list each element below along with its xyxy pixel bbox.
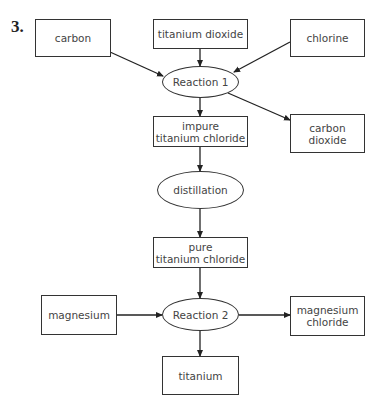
- node-label: titanium: [178, 370, 222, 382]
- node-label: Reaction 2: [173, 309, 229, 321]
- node-carbon-dioxide: carbon dioxide: [290, 114, 365, 153]
- node-label: Reaction 1: [173, 76, 229, 88]
- node-label: titanium dioxide: [158, 28, 243, 40]
- node-label: magnesium: [48, 309, 110, 321]
- node-magnesium-chloride: magnesium chloride: [290, 296, 365, 336]
- node-label: magnesium chloride: [297, 304, 359, 328]
- node-label: pure titanium chloride: [156, 241, 246, 265]
- node-label: chlorine: [306, 32, 348, 44]
- node-chlorine: chlorine: [290, 19, 365, 57]
- node-titanium: titanium: [162, 356, 239, 395]
- question-number: 3.: [11, 17, 24, 37]
- arrow-carbon-to-reaction1: [110, 52, 163, 76]
- node-reaction-1: Reaction 1: [162, 66, 239, 98]
- node-distillation: distillation: [157, 171, 244, 209]
- node-label: distillation: [173, 184, 227, 196]
- node-magnesium: magnesium: [41, 295, 117, 335]
- node-label: impure titanium chloride: [156, 120, 246, 144]
- node-label: carbon dioxide: [309, 122, 347, 146]
- node-titanium-dioxide: titanium dioxide: [153, 19, 248, 49]
- node-label: carbon: [55, 32, 91, 44]
- node-carbon: carbon: [35, 19, 111, 57]
- node-reaction-2: Reaction 2: [162, 298, 239, 331]
- node-pure-titanium-chloride: pure titanium chloride: [153, 237, 248, 268]
- node-impure-titanium-chloride: impure titanium chloride: [153, 116, 248, 147]
